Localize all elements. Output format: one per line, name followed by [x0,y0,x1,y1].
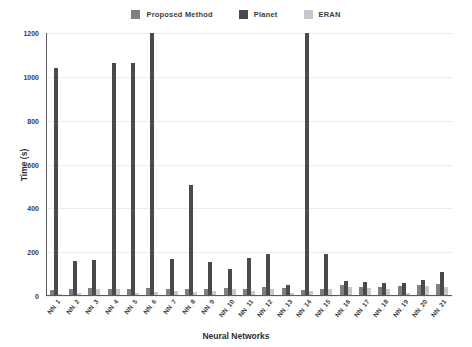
bar-group [317,33,336,296]
y-axis-tick-label: 200 [27,249,39,256]
x-axis-tick-label: NN_1 [45,298,61,315]
x-axis-tick-label: NN_20 [410,298,428,318]
x-axis-tick-label: NN_9 [200,298,216,315]
x-axis-tick-label: NN_4 [103,298,119,315]
y-axis-tick-label: 1200 [23,30,39,37]
y-axis-tick-label: 400 [27,205,39,212]
legend-item-label: Proposed Method [146,10,212,19]
legend-swatch-icon [239,10,248,19]
chart-legend: Proposed MethodPlanetERAN [0,10,472,19]
y-axis-tick-label: 800 [27,117,39,124]
bar-group [259,33,278,296]
bar [73,261,77,296]
legend-item-proposed-method[interactable]: Proposed Method [131,10,212,19]
legend-swatch-icon [131,10,140,19]
bar-group [220,33,239,296]
x-axis-tick-cell: NN_1 [46,297,65,331]
bar-group [46,33,65,296]
x-axis-tick-label: NN_12 [256,298,274,318]
bar-group [143,33,162,296]
y-axis-tick-label: 600 [27,161,39,168]
x-axis-tick-label: NN_10 [217,298,235,318]
bar [150,33,154,296]
bar-group [85,33,104,296]
plot-area: 020040060080010001200 [46,33,452,296]
bar [131,63,135,296]
bar-group [336,33,355,296]
legend-item-planet[interactable]: Planet [239,10,278,19]
x-axis-tick-label: NN_15 [314,298,332,318]
x-axis-tick-label: NN_8 [181,298,197,315]
y-axis-tick-label: 1000 [23,73,39,80]
x-axis-tick-label: NN_17 [352,298,370,318]
x-axis-tick-label: NN_13 [275,298,293,318]
x-axis-tick-label: NN_3 [84,298,100,315]
bar-group [355,33,374,296]
bar-group [297,33,316,296]
bar [54,68,58,296]
bar-group [375,33,394,296]
x-axis-tick-cell: NN_8 [181,297,200,331]
bar [305,33,309,296]
bar-group [394,33,413,296]
bar-groups [46,33,452,296]
x-axis-tick-cell: NN_3 [85,297,104,331]
bar-chart-figure: Proposed MethodPlanetERAN Time (s) 02004… [0,0,472,347]
x-axis-tick-cell: NN_7 [162,297,181,331]
y-axis-line [46,33,47,296]
bar-group [181,33,200,296]
x-axis-tick-label: NN_19 [391,298,409,318]
x-axis-tick-label: NN_18 [372,298,390,318]
x-axis-tick-label: NN_21 [430,298,448,318]
bar-group [65,33,84,296]
bar-group [413,33,432,296]
bar-group [239,33,258,296]
x-axis-title: Neural Networks [0,331,472,341]
x-axis-tick-label: NN_5 [123,298,139,315]
bar-group [201,33,220,296]
x-axis-tick-cell: NN_21 [433,297,452,331]
x-axis-tick-label: NN_11 [237,298,255,318]
x-axis-tick-label: NN_7 [161,298,177,315]
x-axis-tick-cell: NN_2 [65,297,84,331]
bar-group [162,33,181,296]
bar [112,63,116,296]
x-axis-tick-label: NN_2 [65,298,81,315]
legend-item-eran[interactable]: ERAN [304,10,341,19]
bar-group [104,33,123,296]
x-axis-tick-cell: NN_5 [123,297,142,331]
x-axis-tick-label: NN_14 [294,298,312,318]
x-axis-tick-label: NN_6 [142,298,158,315]
x-axis-tick-cell: NN_6 [143,297,162,331]
bar-group [278,33,297,296]
x-axis-line [46,295,452,296]
x-axis-tick-cell: NN_4 [104,297,123,331]
bar-group [433,33,452,296]
y-axis-tick-label: 0 [35,293,39,300]
x-axis-tick-labels: NN_1NN_2NN_3NN_4NN_5NN_6NN_7NN_8NN_9NN_1… [46,297,452,331]
x-axis-tick-label: NN_16 [333,298,351,318]
legend-swatch-icon [304,10,313,19]
bar-group [123,33,142,296]
legend-item-label: ERAN [319,10,341,19]
bar [189,185,193,296]
legend-item-label: Planet [254,10,278,19]
